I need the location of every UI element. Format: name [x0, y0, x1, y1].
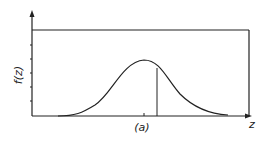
density-chart: f(z) (a) z [0, 0, 264, 145]
density-curve [58, 60, 228, 116]
annotation-a: (a) [134, 121, 149, 134]
x-axis-label: z [248, 118, 255, 131]
y-axis-arrow-icon [30, 10, 35, 17]
y-axis-label: f(z) [12, 66, 25, 84]
